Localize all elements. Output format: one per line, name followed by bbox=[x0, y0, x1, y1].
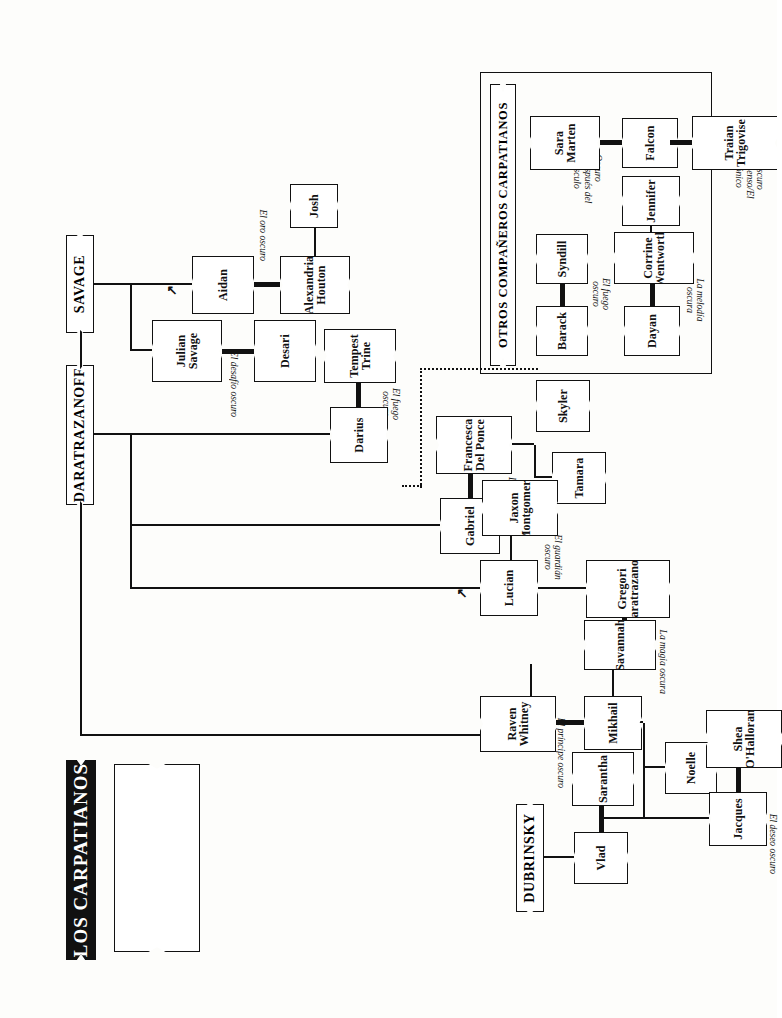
link-alexandria-josh bbox=[314, 228, 316, 256]
node-label: Jacques bbox=[731, 798, 743, 839]
node-label: Alexandria Houton bbox=[302, 256, 327, 314]
node-aidan[interactable]: Aidan bbox=[192, 256, 254, 314]
vlad-children-stem bbox=[599, 817, 643, 819]
link-mikhail-savannah bbox=[612, 670, 614, 696]
family-plate-dubrinsky: DUBRINSKY bbox=[516, 804, 544, 912]
node-label: Desari bbox=[278, 334, 290, 368]
noelle-drop bbox=[643, 766, 665, 768]
gabriel-drop bbox=[130, 524, 440, 526]
book-el-oro-oscuro: El oro oscuro bbox=[258, 209, 268, 261]
daratrazanoff-twins-mark: ↗ bbox=[454, 588, 470, 599]
node-label: Dayan bbox=[645, 314, 657, 348]
node-desari[interactable]: Desari bbox=[254, 320, 316, 382]
node-jacques[interactable]: Jacques bbox=[709, 792, 767, 846]
node-skyler[interactable]: Skyler bbox=[536, 380, 590, 432]
family-plate-otros: OTROS COMPAÑEROS CARPATIANOS bbox=[490, 84, 516, 366]
family-plate-daratrazanoff: DARATRAZANOFF bbox=[66, 365, 94, 505]
node-label: Syndill bbox=[555, 241, 567, 278]
node-label: Tempest Trine bbox=[347, 334, 372, 378]
bond-barack-syndill bbox=[560, 284, 565, 306]
node-label: Sarantha bbox=[596, 755, 608, 803]
node-dayan[interactable]: Dayan bbox=[624, 306, 680, 356]
savage-sibling-bar bbox=[130, 285, 132, 351]
node-label: Skyler bbox=[556, 389, 568, 423]
node-label: Lucian bbox=[502, 570, 514, 607]
daratrazanoff-stem bbox=[94, 433, 130, 435]
node-sarantha[interactable]: Sarantha bbox=[572, 752, 634, 806]
node-label: Gregori Daratrazanoff bbox=[615, 552, 640, 627]
node-corrine-wentworth[interactable]: Corrine Wentworth bbox=[614, 232, 694, 284]
node-label: Gabriel bbox=[463, 506, 475, 546]
gregori-stem bbox=[538, 587, 586, 589]
node-francesca-del-ponce[interactable]: Francesca Del Ponce bbox=[436, 416, 512, 474]
page-title: LOS CARPATIANOS bbox=[66, 760, 96, 960]
gabriel-children-stem bbox=[512, 443, 534, 445]
node-label: Darius bbox=[352, 417, 364, 452]
legend-box bbox=[114, 764, 200, 952]
node-tempest-trine[interactable]: Tempest Trine bbox=[324, 329, 396, 383]
node-lucian[interactable]: Lucian bbox=[480, 560, 538, 616]
node-darius[interactable]: Darius bbox=[330, 407, 388, 463]
link-lucian-jaxon bbox=[510, 536, 512, 560]
node-label: Noelle bbox=[684, 752, 696, 785]
node-label: Barack bbox=[555, 312, 567, 350]
node-label: Aidan bbox=[216, 269, 228, 301]
book-la-melodia-oscura: La melodía oscura bbox=[684, 278, 705, 322]
node-syndill[interactable]: Syndill bbox=[536, 234, 588, 284]
node-label: Raven Whitney bbox=[505, 702, 530, 747]
gabriel-children-bar bbox=[534, 445, 536, 478]
genealogy-chart: LOS CARPATIANOS Clave Compañero/a eterno… bbox=[44, 44, 734, 974]
node-label: Vlad bbox=[594, 845, 606, 870]
bond-dayan-corrine bbox=[650, 284, 655, 306]
node-julian-savage[interactable]: Julian Savage bbox=[152, 320, 222, 382]
node-label: Josh bbox=[307, 194, 319, 218]
book-el-deseo-oscuro: El deseo oscuro bbox=[768, 814, 778, 874]
bond-vlad-sarantha bbox=[599, 806, 604, 832]
node-sara-marten[interactable]: Sara Marten bbox=[530, 116, 600, 170]
book-el-guardian-oscuro: El guardián oscuro bbox=[542, 534, 563, 580]
node-label: Mikhail bbox=[606, 702, 618, 743]
adoption-link-skyler-up bbox=[402, 485, 422, 487]
node-label: Tamara bbox=[572, 458, 584, 499]
node-label: Falcon bbox=[643, 125, 655, 160]
node-label: Jaxon Montgomery bbox=[507, 474, 532, 542]
node-label: Francesca Del Ponce bbox=[461, 419, 486, 472]
node-falcon-2[interactable]: Falcon bbox=[622, 118, 678, 168]
node-barack[interactable]: Barack bbox=[536, 306, 588, 356]
node-label: Savannah bbox=[613, 619, 625, 671]
savage-julian-drop bbox=[130, 349, 152, 351]
node-shea-ohalloran[interactable]: Shea O'Halloran bbox=[706, 710, 782, 768]
bond-darius-tempest bbox=[356, 383, 361, 407]
savage-stem bbox=[94, 283, 130, 285]
node-label: Jennifer bbox=[644, 179, 656, 222]
node-label: Sara Marten bbox=[552, 122, 577, 164]
node-savannah[interactable]: Savannah bbox=[584, 620, 656, 670]
node-jennifer[interactable]: Jennifer bbox=[622, 176, 680, 226]
book-el-principe-oscuro: El príncipe oscuro bbox=[556, 718, 566, 788]
bond-jacques-shea bbox=[736, 768, 741, 792]
node-tamara[interactable]: Tamara bbox=[552, 452, 606, 504]
family-plate-savage: SAVAGE bbox=[66, 235, 94, 333]
node-vlad[interactable]: Vlad bbox=[574, 832, 628, 884]
book-el-desafio-oscuro: El desafío oscuro bbox=[229, 351, 239, 417]
adoption-link-skyler bbox=[420, 368, 422, 488]
vlad-children-bar bbox=[643, 723, 645, 819]
node-alexandria-houton[interactable]: Alexandria Houton bbox=[280, 256, 350, 314]
lucian-drop bbox=[130, 587, 480, 589]
node-label: Shea O'Halloran bbox=[731, 709, 756, 769]
tamara-drop bbox=[534, 476, 552, 478]
node-gregori-daratrazanoff[interactable]: Gregori Daratrazanoff bbox=[586, 560, 670, 618]
node-jaxon-montgomery[interactable]: Jaxon Montgomery bbox=[482, 480, 558, 536]
node-josh[interactable]: Josh bbox=[290, 184, 338, 228]
node-mikhail[interactable]: Mikhail bbox=[584, 696, 642, 750]
node-raven-whitney[interactable]: Raven Whitney bbox=[480, 696, 556, 752]
node-label: Corrine Wentworth bbox=[641, 229, 666, 288]
book-otros-el-fuego-oscuro: El fuego oscuro bbox=[590, 272, 611, 316]
bond-gabriel-francesca bbox=[468, 474, 473, 498]
jacques-drop bbox=[643, 817, 709, 819]
trunk-main bbox=[80, 284, 82, 736]
savage-twins-mark: ↗ bbox=[164, 285, 180, 296]
adoption-link-skyler-drop bbox=[420, 368, 538, 370]
savage-aidan-drop bbox=[130, 283, 192, 285]
